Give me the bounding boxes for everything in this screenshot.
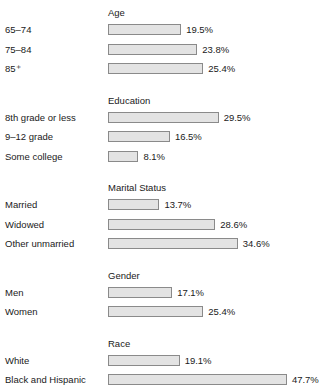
group-header: Marital Status	[108, 182, 166, 193]
group-header: Race	[108, 338, 130, 349]
bar-value-label: 16.5%	[175, 131, 202, 143]
category-label: Black and Hispanic	[5, 374, 86, 386]
bar	[108, 131, 170, 142]
bar-value-label: 17.1%	[177, 287, 204, 299]
bar-row: 85⁺25.4%	[0, 63, 328, 75]
category-label: Women	[5, 306, 38, 318]
bar-row: 9–12 grade16.5%	[0, 131, 328, 143]
bar-value-label: 25.4%	[208, 306, 235, 318]
bar	[108, 63, 203, 74]
bar	[108, 306, 203, 317]
bar-row: 8th grade or less29.5%	[0, 112, 328, 124]
bar-row: Men17.1%	[0, 287, 328, 299]
category-label: Other unmarried	[5, 238, 74, 250]
bar	[108, 44, 197, 55]
bar-value-label: 19.1%	[185, 355, 212, 367]
category-label: 9–12 grade	[5, 131, 53, 143]
category-label: 65–74	[5, 24, 31, 36]
bar-value-label: 8.1%	[143, 151, 165, 163]
bar-value-label: 29.5%	[224, 112, 251, 124]
category-label: Men	[5, 287, 23, 299]
bar-value-label: 47.7%	[292, 374, 319, 386]
bar	[108, 112, 219, 123]
bar-row: 65–7419.5%	[0, 24, 328, 36]
bar-row: 75–8423.8%	[0, 44, 328, 56]
bar-value-label: 23.8%	[202, 44, 229, 56]
category-label: Some college	[5, 151, 63, 163]
group-header: Education	[108, 95, 150, 106]
group-header: Age	[108, 7, 125, 18]
bar-row: Black and Hispanic47.7%	[0, 374, 328, 386]
bar	[108, 374, 287, 385]
bar-row: Other unmarried34.6%	[0, 238, 328, 250]
bar-value-label: 25.4%	[208, 63, 235, 75]
bar-row: Women25.4%	[0, 306, 328, 318]
category-label: 8th grade or less	[5, 112, 76, 124]
bar-value-label: 34.6%	[243, 238, 270, 250]
bar-row: Some college8.1%	[0, 151, 328, 163]
bar-value-label: 13.7%	[164, 199, 191, 211]
bar-row: Married13.7%	[0, 199, 328, 211]
category-label: 75–84	[5, 44, 31, 56]
bar	[108, 199, 159, 210]
bar-value-label: 28.6%	[220, 219, 247, 231]
bar	[108, 355, 180, 366]
category-label: Married	[5, 199, 37, 211]
bar	[108, 287, 172, 298]
bar-row: Widowed28.6%	[0, 219, 328, 231]
category-label: Widowed	[5, 219, 44, 231]
category-label: White	[5, 355, 29, 367]
bar	[108, 219, 215, 230]
bar	[108, 24, 181, 35]
bar-row: White19.1%	[0, 355, 328, 367]
group-header: Gender	[108, 270, 140, 281]
bar-value-label: 19.5%	[186, 24, 213, 36]
bar	[108, 238, 238, 249]
bar	[108, 151, 138, 162]
category-label: 85⁺	[5, 63, 21, 75]
